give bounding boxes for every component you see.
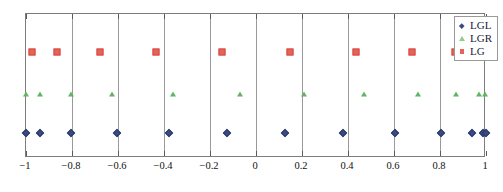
x-tick-label: 0.6 bbox=[386, 160, 399, 171]
data-point-lgr bbox=[68, 91, 74, 96]
x-tick-label: 0 bbox=[252, 160, 257, 171]
x-tick-label: 0.4 bbox=[340, 160, 353, 171]
legend-label-lg: LG bbox=[470, 45, 485, 58]
data-point-lgl bbox=[67, 129, 75, 137]
data-point-lg bbox=[218, 49, 225, 56]
tick-mark bbox=[348, 151, 349, 156]
tick-mark bbox=[210, 151, 211, 156]
legend-label-lgl: LGL bbox=[470, 19, 491, 32]
data-point-lgr bbox=[453, 91, 459, 96]
triangle-marker-icon bbox=[458, 36, 466, 41]
tick-mark bbox=[256, 151, 257, 156]
x-tick-label: −0.4 bbox=[153, 160, 172, 171]
data-point-lgl bbox=[22, 129, 30, 137]
data-point-lgr bbox=[109, 91, 115, 96]
chart-figure: −1−0.8−0.6−0.4−0.200.20.40.60.81 LGL LGR… bbox=[0, 0, 503, 192]
data-point-lgr bbox=[301, 91, 307, 96]
x-tick-label: −0.2 bbox=[199, 160, 218, 171]
data-point-lg bbox=[153, 49, 160, 56]
data-point-lgl bbox=[112, 129, 120, 137]
data-point-lg bbox=[409, 49, 416, 56]
data-point-lg bbox=[287, 49, 294, 56]
data-point-lg bbox=[29, 49, 36, 56]
tick-mark bbox=[26, 151, 27, 156]
data-point-lgl bbox=[36, 129, 44, 137]
tick-mark bbox=[210, 14, 211, 19]
x-tick-label: 0.8 bbox=[432, 160, 445, 171]
tick-mark bbox=[118, 151, 119, 156]
tick-mark bbox=[486, 151, 487, 156]
tick-mark bbox=[164, 14, 165, 19]
x-tick-label: 0.2 bbox=[294, 160, 307, 171]
data-point-lgl bbox=[391, 129, 399, 137]
data-point-lg bbox=[54, 49, 61, 56]
x-tick-label: −0.8 bbox=[61, 160, 80, 171]
data-point-lgl bbox=[437, 129, 445, 137]
tick-mark bbox=[394, 14, 395, 19]
data-point-lgr bbox=[361, 91, 367, 96]
x-tick-label: −1 bbox=[19, 160, 30, 171]
legend-label-lgr: LGR bbox=[470, 32, 492, 45]
data-point-lgl bbox=[468, 129, 476, 137]
tick-mark bbox=[440, 151, 441, 156]
square-marker-icon bbox=[458, 49, 466, 54]
tick-mark bbox=[302, 151, 303, 156]
tick-mark bbox=[118, 14, 119, 19]
data-point-lg bbox=[352, 49, 359, 56]
tick-mark bbox=[348, 14, 349, 19]
data-point-lgr bbox=[37, 91, 43, 96]
x-tick-label: −0.6 bbox=[107, 160, 126, 171]
gridline bbox=[348, 14, 349, 156]
gridline bbox=[256, 14, 257, 156]
data-point-lgr bbox=[237, 91, 243, 96]
gridline bbox=[302, 14, 303, 156]
legend-item-lgl[interactable]: LGL bbox=[458, 19, 492, 32]
tick-mark bbox=[164, 151, 165, 156]
data-point-lgr bbox=[482, 91, 488, 96]
gridline bbox=[210, 14, 211, 156]
diamond-marker-icon bbox=[458, 24, 466, 28]
tick-mark bbox=[440, 14, 441, 19]
tick-mark bbox=[72, 151, 73, 156]
tick-mark bbox=[256, 14, 257, 19]
tick-mark bbox=[72, 14, 73, 19]
legend-item-lgr[interactable]: LGR bbox=[458, 32, 492, 45]
chart-legend: LGL LGR LG bbox=[454, 16, 498, 61]
x-tick-label: 1 bbox=[482, 160, 487, 171]
tick-mark bbox=[394, 151, 395, 156]
data-point-lg bbox=[96, 49, 103, 56]
data-point-lgr bbox=[415, 91, 421, 96]
data-point-lgl bbox=[338, 129, 346, 137]
data-point-lgl bbox=[281, 129, 289, 137]
legend-item-lg[interactable]: LG bbox=[458, 45, 492, 58]
tick-mark bbox=[302, 14, 303, 19]
data-point-lgr bbox=[170, 91, 176, 96]
data-point-lgl bbox=[165, 129, 173, 137]
data-point-lgl bbox=[223, 129, 231, 137]
data-point-lgr bbox=[23, 91, 29, 96]
gridline bbox=[164, 14, 165, 156]
tick-mark bbox=[26, 14, 27, 19]
plot-area bbox=[25, 13, 485, 157]
